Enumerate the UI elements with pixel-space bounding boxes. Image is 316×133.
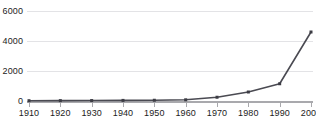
y-tick-label: 0 (18, 97, 23, 106)
data-point-marker (28, 99, 31, 102)
x-tick-label: 1990 (269, 109, 289, 118)
y-tick-label: 6000 (3, 7, 23, 16)
y-tick-label: 2000 (3, 67, 23, 76)
x-tick-label: 1920 (50, 109, 70, 118)
data-point-marker (59, 99, 62, 102)
data-point-marker (153, 99, 156, 102)
x-tick-label: 1980 (238, 109, 258, 118)
y-tick-label: 4000 (3, 37, 23, 46)
data-point-marker (216, 96, 219, 99)
data-point-marker (247, 91, 250, 94)
x-tick-label: 1970 (207, 109, 227, 118)
series-line (29, 32, 311, 101)
data-point-marker (122, 99, 125, 102)
data-point-marker (310, 31, 313, 34)
data-point-marker (90, 99, 93, 102)
x-tick-label: 1910 (19, 109, 39, 118)
data-point-marker (278, 82, 281, 85)
line-chart: 0200040006000 19101920193019401950196019… (0, 0, 316, 133)
x-tick-label: 1930 (81, 109, 101, 118)
x-tick-label: 1940 (113, 109, 133, 118)
x-tick-label: 1950 (144, 109, 164, 118)
x-tick-label: 1960 (175, 109, 195, 118)
data-point-marker (184, 98, 187, 101)
x-tick-label: 2000 (301, 109, 316, 118)
